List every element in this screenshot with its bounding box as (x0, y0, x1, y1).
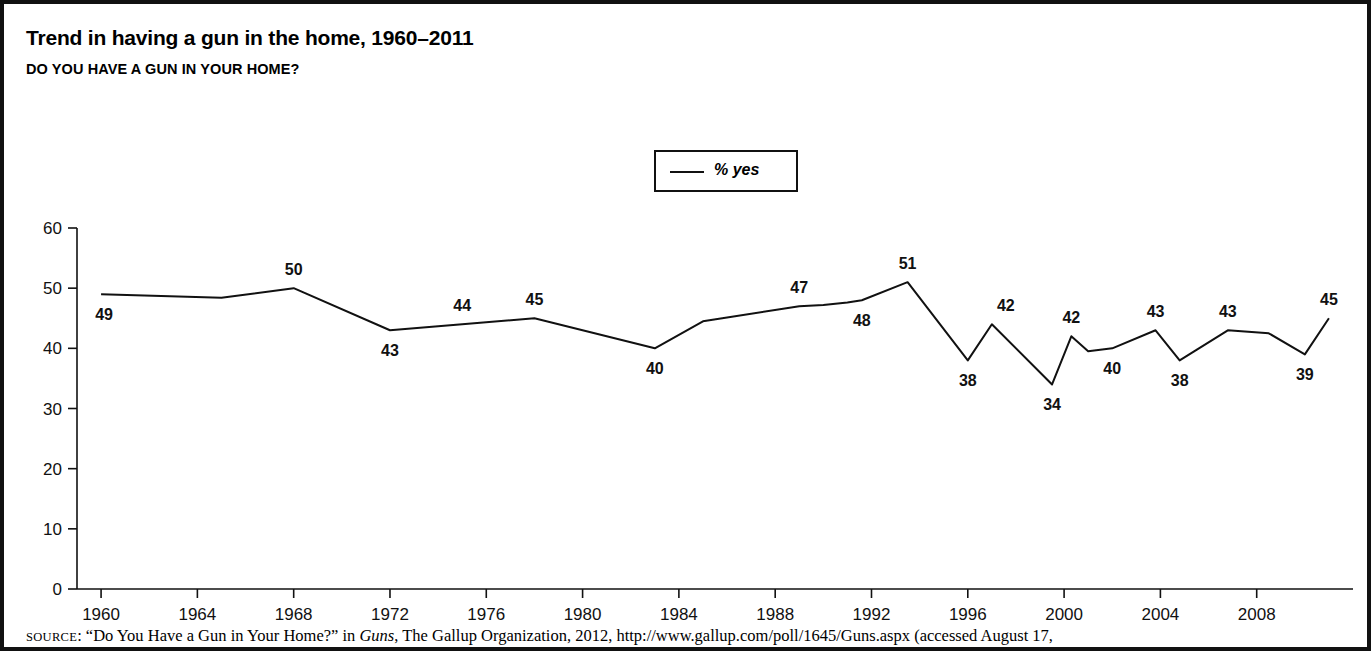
x-axis-tick-label: 2004 (1141, 605, 1179, 624)
source-note: SOURCE: “Do You Have a Gun in Your Home?… (26, 627, 1053, 645)
x-axis-tick-label: 1992 (853, 605, 891, 624)
x-axis-tick-label: 1968 (275, 605, 313, 624)
y-axis-tick-label: 0 (53, 580, 62, 599)
x-axis-tick-label: 1976 (467, 605, 505, 624)
chart-point-labels: 49504344454047485138423442404338433945 (95, 255, 1338, 413)
y-axis-tick-label: 60 (43, 219, 62, 238)
x-axis-tick-label: 1984 (660, 605, 698, 624)
data-point-label: 42 (997, 297, 1015, 314)
data-point-label: 44 (453, 297, 471, 314)
x-axis-tick-label: 1988 (756, 605, 794, 624)
data-point-label: 50 (285, 261, 303, 278)
data-point-label: 43 (1147, 303, 1165, 320)
chart-axes: 0102030405060196019641968197219761980198… (43, 219, 1353, 624)
data-point-label: 45 (526, 291, 544, 308)
x-axis-tick-label: 1964 (178, 605, 216, 624)
source-keyword: SOURCE (26, 630, 77, 644)
data-point-label: 49 (95, 306, 113, 323)
data-point-label: 43 (381, 342, 399, 359)
x-axis-tick-label: 1960 (82, 605, 120, 624)
data-point-label: 40 (646, 360, 664, 377)
data-point-label: 51 (899, 255, 917, 272)
data-point-label: 48 (853, 312, 871, 329)
source-text-after: , The Gallup Organization, 2012, http://… (394, 626, 1053, 645)
y-axis-tick-label: 10 (43, 520, 62, 539)
x-axis-tick-label: 2008 (1238, 605, 1276, 624)
data-point-label: 38 (1171, 372, 1189, 389)
y-axis-tick-label: 40 (43, 339, 62, 358)
data-point-label: 38 (959, 372, 977, 389)
x-axis-tick-label: 2000 (1045, 605, 1083, 624)
source-italic-title: Guns (359, 626, 394, 645)
x-axis-tick-label: 1972 (371, 605, 409, 624)
chart-figure: Trend in having a gun in the home, 1960–… (0, 0, 1371, 651)
data-point-label: 39 (1296, 366, 1314, 383)
y-axis-tick-label: 30 (43, 400, 62, 419)
data-point-label: 47 (790, 279, 808, 296)
x-axis-tick-label: 1980 (564, 605, 602, 624)
data-point-label: 43 (1219, 303, 1237, 320)
y-axis-tick-label: 20 (43, 460, 62, 479)
source-text-before: : “Do You Have a Gun in Your Home?” in (77, 626, 359, 645)
data-point-label: 42 (1062, 309, 1080, 326)
data-point-label: 34 (1043, 396, 1061, 413)
chart-plot-area: 0102030405060196019641968197219761980198… (4, 4, 1371, 651)
x-axis-tick-label: 1996 (949, 605, 987, 624)
series-line (101, 282, 1329, 384)
data-point-label: 45 (1320, 291, 1338, 308)
y-axis-tick-label: 50 (43, 279, 62, 298)
chart-series (101, 282, 1329, 384)
data-point-label: 40 (1103, 360, 1121, 377)
